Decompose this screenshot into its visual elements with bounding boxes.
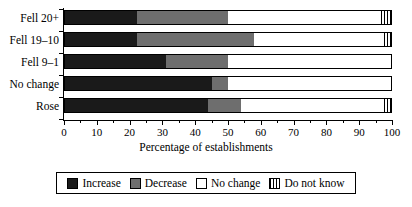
x-axis-tick-minor — [277, 121, 278, 123]
stacked-bar-chart: Fell 20+ Fell 19–10 Fell 9–1 No change R… — [0, 0, 412, 207]
chart-legend: Increase Decrease No change Do not know — [56, 172, 356, 194]
y-axis-tick — [59, 119, 63, 120]
category-label-fell-20-plus: Fell 20+ — [0, 12, 59, 24]
legend-swatch-do-not-know-icon — [269, 178, 280, 189]
x-axis-tick-label: 30 — [147, 126, 177, 138]
legend-item-increase: Increase — [67, 177, 120, 189]
x-axis-tick-minor — [179, 121, 180, 123]
legend-label-decrease: Decrease — [145, 177, 187, 189]
bar-segment-no-change — [254, 33, 384, 46]
y-axis-tick — [59, 53, 63, 54]
bar-segment-decrease — [212, 77, 228, 90]
bar-segment-increase — [65, 11, 137, 24]
x-axis-tick — [228, 121, 229, 125]
legend-item-decrease: Decrease — [130, 177, 187, 189]
x-axis-tick-label: 20 — [115, 126, 145, 138]
x-axis-tick-minor — [310, 121, 311, 123]
x-axis-tick-label: 70 — [279, 126, 309, 138]
x-axis-tick-label: 90 — [344, 126, 374, 138]
category-label-no-change: No change — [0, 78, 59, 90]
x-axis-tick-label: 0 — [49, 126, 79, 138]
bar-segment-increase — [65, 33, 137, 46]
table-row — [64, 10, 392, 25]
legend-swatch-decrease-icon — [130, 178, 141, 189]
bar-segment-no-change — [228, 77, 391, 90]
table-row — [64, 98, 392, 113]
x-axis-tick-minor — [146, 121, 147, 123]
legend-item-no-change: No change — [196, 177, 261, 189]
category-label-rose: Rose — [0, 100, 59, 112]
x-axis-tick-label: 40 — [180, 126, 210, 138]
bar-segment-no-change — [241, 99, 384, 112]
legend-label-increase: Increase — [82, 177, 120, 189]
table-row — [64, 54, 392, 69]
bar-segment-decrease — [208, 99, 241, 112]
x-axis-tick-label: 50 — [213, 126, 243, 138]
y-axis-tick — [59, 75, 63, 76]
y-axis-tick — [59, 97, 63, 98]
bar-segment-do-not-know — [381, 11, 391, 24]
bar-segment-increase — [65, 55, 166, 68]
bar-segment-do-not-know — [384, 99, 391, 112]
legend-label-no-change: No change — [211, 177, 261, 189]
bar-segment-decrease — [137, 33, 254, 46]
x-axis-tick-minor — [376, 121, 377, 123]
bar-segment-decrease — [166, 55, 228, 68]
bar-segment-increase — [65, 99, 208, 112]
x-axis-tick-minor — [212, 121, 213, 123]
x-axis-tick-minor — [113, 121, 114, 123]
bar-segment-no-change — [228, 11, 381, 24]
x-axis-tick-minor — [343, 121, 344, 123]
category-label-fell-19-10: Fell 19–10 — [0, 34, 59, 46]
bar-segment-increase — [65, 77, 212, 90]
x-axis-tick — [261, 121, 262, 125]
legend-item-do-not-know: Do not know — [269, 177, 344, 189]
legend-swatch-no-change-icon — [196, 178, 207, 189]
x-axis-tick — [359, 121, 360, 125]
x-axis-tick-label: 100 — [377, 126, 407, 138]
table-row — [64, 76, 392, 91]
y-axis-tick — [59, 9, 63, 10]
x-axis-tick — [294, 121, 295, 125]
x-axis-tick — [130, 121, 131, 125]
plot-area — [64, 8, 392, 120]
y-axis-tick — [59, 31, 63, 32]
legend-swatch-increase-icon — [67, 178, 78, 189]
category-axis-labels: Fell 20+ Fell 19–10 Fell 9–1 No change R… — [0, 8, 59, 120]
x-axis-tick-minor — [80, 121, 81, 123]
bar-segment-decrease — [137, 11, 228, 24]
x-axis-tick — [195, 121, 196, 125]
category-label-fell-9-1: Fell 9–1 — [0, 56, 59, 68]
table-row — [64, 32, 392, 47]
x-axis-tick-label: 80 — [311, 126, 341, 138]
legend-label-do-not-know: Do not know — [284, 177, 344, 189]
x-axis-tick — [97, 121, 98, 125]
bar-segment-no-change — [228, 55, 391, 68]
x-axis-tick-label: 10 — [82, 126, 112, 138]
x-axis-tick-label: 60 — [246, 126, 276, 138]
x-axis-tick — [392, 121, 393, 125]
x-axis-tick-minor — [244, 121, 245, 123]
bar-segment-do-not-know — [384, 33, 391, 46]
x-axis-title: Percentage of establishments — [0, 141, 412, 154]
x-axis-tick — [64, 121, 65, 125]
x-axis-tick — [162, 121, 163, 125]
x-axis-tick — [326, 121, 327, 125]
